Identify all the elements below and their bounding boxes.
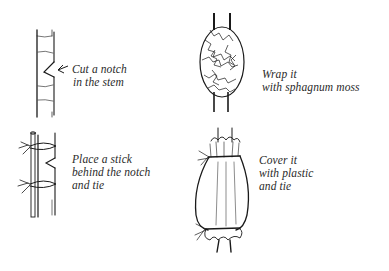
step-1-caption: Cut a notch in the stem [72,63,127,89]
stem-notch-illustration [37,30,54,117]
caption-line: in the stem [72,76,127,89]
caption-line: behind the notch [72,166,150,179]
arrow-icon [58,65,68,73]
caption-line: Place a stick [72,153,150,166]
caption-line: and tie [72,179,150,192]
step-3-caption: Wrap it with sphagnum moss [262,68,360,94]
stem-stick-illustration [18,132,56,217]
caption-line: with sphagnum moss [262,81,360,94]
plastic-cover-illustration [195,128,248,252]
air-layering-diagram: Cut a notch in the stem Place a stick be… [0,0,389,271]
moss-wrap-illustration [200,13,244,112]
step-4-caption: Cover it with plastic and tie [259,154,314,193]
step-2-caption: Place a stick behind the notch and tie [72,153,150,192]
caption-line: Cover it [259,154,314,167]
caption-line: Wrap it [262,68,360,81]
caption-line: with plastic [259,167,314,180]
caption-line: and tie [259,180,314,193]
caption-line: Cut a notch [72,63,127,76]
diagram-illustrations [0,0,389,271]
